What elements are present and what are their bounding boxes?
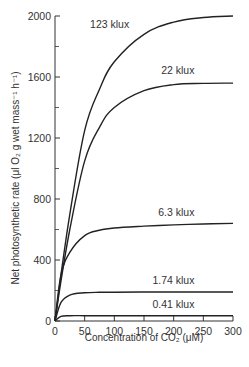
y-tick-label: 0 bbox=[45, 315, 51, 327]
curve-22-klux bbox=[55, 83, 233, 321]
y-tick-label: 800 bbox=[33, 193, 51, 205]
curve-123-klux bbox=[55, 16, 233, 321]
y-tick-label: 400 bbox=[33, 254, 51, 266]
y-axis-title: Net photosynthetic rate (μl O₂ g wet mas… bbox=[10, 71, 21, 284]
curves bbox=[55, 16, 233, 321]
photosynthesis-chart: 0400800120016002000050100150200250300 12… bbox=[0, 0, 249, 367]
series-label: 22 klux bbox=[161, 64, 195, 76]
y-tick-label: 1600 bbox=[28, 71, 52, 83]
x-tick-label: 0 bbox=[52, 325, 58, 337]
series-label: 0.41 klux bbox=[152, 298, 195, 310]
x-tick-label: 300 bbox=[224, 325, 242, 337]
y-tick-label: 1200 bbox=[28, 132, 52, 144]
curve-6-3-klux bbox=[55, 223, 233, 321]
series-label: 1.74 klux bbox=[152, 274, 195, 286]
series-labels: 123 klux22 klux6.3 klux1.74 klux0.41 klu… bbox=[90, 18, 195, 310]
x-axis-title: Concentration of CO₂ (μM) bbox=[85, 332, 204, 343]
series-label: 6.3 klux bbox=[158, 206, 195, 218]
series-label: 123 klux bbox=[90, 18, 130, 30]
y-tick-label: 2000 bbox=[28, 10, 52, 22]
